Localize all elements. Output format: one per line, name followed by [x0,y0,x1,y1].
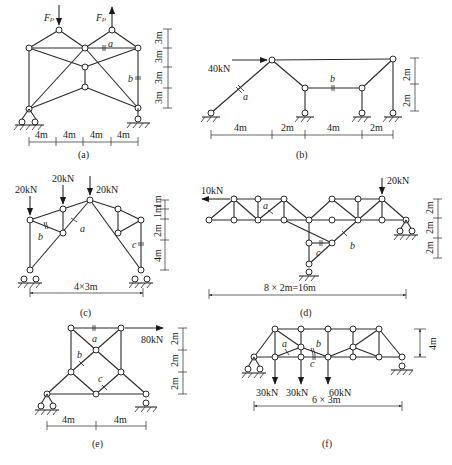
svg-text:4m: 4m [427,337,438,350]
panel-f: 30kN 30kN 60kN a b c 6 × 3m 4m (f) [242,326,438,450]
load-label: 20kN [15,184,37,195]
svg-text:1m: 1m [152,205,163,218]
panel-b: 40kN a b 4m 2m 4m 2m 2m 2m (b) [201,56,419,161]
panel-d: 10kN 20kN a b c 8 × 2m=16m 2m 2m 2m (d) [201,175,442,319]
svg-text:2m: 2m [424,241,435,254]
svg-text:2m: 2m [401,68,412,81]
svg-text:2m: 2m [401,94,412,107]
dimension-horizontal-c: 4×3m [30,281,143,297]
load-arrows-c: 20kN 20kN 20kN [15,173,118,215]
caption-a: (a) [78,149,89,161]
pin-supports-b [201,110,402,122]
load-arrow-a-down: Fₚ [43,5,59,25]
svg-text:4m: 4m [234,122,247,133]
load-label: 80kN [141,334,163,345]
svg-text:4m: 4m [63,129,76,140]
load-label: 30kN [286,387,308,398]
dimension-vertical-a: 3m 3m 3m 3m [153,29,172,108]
load-label: 20kN [387,175,409,186]
truss-f-members [254,329,402,357]
svg-text:2m: 2m [424,201,435,214]
dimension-horizontal-e: 4m 4m [47,414,146,430]
svg-text:2m: 2m [370,122,383,133]
dimension-vertical-d: 2m 2m 2m [424,199,442,258]
caption-c: (c) [80,307,91,319]
dimension-horizontal-d: 8 × 2m=16m [209,282,406,299]
svg-text:4m: 4m [117,129,130,140]
load-arrows-f: 30kN 30kN 60kN [256,360,351,398]
load-label: 40kN [208,63,230,74]
dimension-vertical-b: 2m 2m [401,58,419,111]
caption-f: (f) [322,438,332,450]
truss-c-members [30,200,141,270]
panel-e: 80kN a b c 4m 4m 2m 2m 2m (e) [35,325,187,450]
member-label-c: c [98,373,103,384]
roller-support-a-right [127,108,150,128]
svg-text:4m: 4m [327,122,340,133]
member-label-a: a [108,38,113,49]
svg-text:4×3m: 4×3m [74,281,98,292]
truss-d-members [209,199,406,264]
member-label-b: b [128,73,133,84]
dimension-horizontal-b: 4m 2m 4m 2m [211,122,393,139]
panel-c: 20kN 20kN 20kN a b c 4×3m 1m 1m 2m 4m (c… [15,173,169,319]
panel-a: Fₚ Fₚ a b 4m 4m 4m 4m 3m 3m 3m 3m (a) [14,5,172,161]
svg-text:8 × 2m=16m: 8 × 2m=16m [264,282,316,293]
svg-text:2m: 2m [169,377,180,390]
member-label-c: c [316,247,321,258]
svg-text:4m: 4m [62,414,75,425]
load-label: Fₚ [43,12,54,23]
member-label-a: a [80,223,85,234]
member-label-c: c [132,239,137,250]
member-label-b: b [316,338,321,349]
load-arrow-e-right: 80kN [125,328,163,345]
svg-text:2m: 2m [169,354,180,367]
load-label: 10kN [201,185,223,196]
load-label: 30kN [256,387,278,398]
svg-text:2m: 2m [152,224,163,237]
svg-text:6 × 3m: 6 × 3m [312,394,341,405]
dimension-vertical-e: 2m 2m 2m [169,328,187,394]
member-label-b: b [38,231,43,242]
caption-e: (e) [92,438,103,450]
load-label: 20kN [52,173,74,184]
svg-text:2m: 2m [424,221,435,234]
member-label-b: b [330,73,335,84]
member-label-a: a [243,91,248,102]
member-label-a: a [282,338,287,349]
dimension-vertical-f: 4m [414,329,438,357]
caption-d: (d) [300,307,312,319]
svg-text:3m: 3m [153,91,164,104]
member-cut-marks-b [236,85,334,93]
truss-b-members [211,59,393,113]
load-label: 20kN [96,184,118,195]
caption-b: (b) [296,149,308,161]
member-label-c: c [310,358,315,369]
member-label-a: a [263,200,268,211]
member-label-b: b [350,240,355,251]
member-label-b: b [77,349,82,360]
svg-text:3m: 3m [153,31,164,44]
svg-text:3m: 3m [153,50,164,63]
svg-text:4m: 4m [114,414,127,425]
dimension-horizontal-a: 4m 4m 4m 4m [29,129,138,146]
svg-text:3m: 3m [153,71,164,84]
load-label: Fₚ [95,12,106,23]
svg-text:2m: 2m [169,332,180,345]
member-label-a: a [92,333,97,344]
truss-figure-canvas: Fₚ Fₚ a b 4m 4m 4m 4m 3m 3m 3m 3m (a) [0,0,452,465]
svg-text:2m: 2m [281,122,294,133]
nodes-c [27,197,144,273]
dimension-vertical-c: 1m 1m 2m 4m [152,195,169,270]
load-arrows-d: 10kN 20kN [201,175,409,199]
svg-text:4m: 4m [152,249,163,262]
svg-text:4m: 4m [35,129,48,140]
svg-text:4m: 4m [90,129,103,140]
load-arrow-a-up: Fₚ [95,7,112,28]
